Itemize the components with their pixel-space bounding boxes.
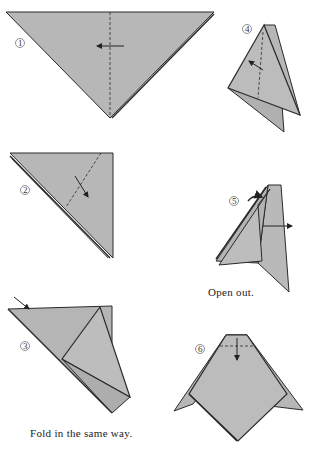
step-5-caption: Open out. bbox=[208, 286, 254, 298]
step-6: 6 bbox=[174, 335, 303, 441]
origami-diagram: 1 4 2 5 3 bbox=[0, 0, 312, 454]
step-3: 3 bbox=[8, 297, 130, 413]
step-3-caption: Fold in the same way. bbox=[30, 427, 132, 439]
step-number-1: 1 bbox=[18, 38, 23, 48]
step-number-6: 6 bbox=[198, 344, 203, 354]
step-number-5: 5 bbox=[232, 196, 237, 206]
step-2: 2 bbox=[10, 153, 113, 258]
step-4: 4 bbox=[228, 24, 300, 132]
step-1: 1 bbox=[6, 12, 214, 118]
step-5: 5 bbox=[216, 185, 292, 292]
step-number-2: 2 bbox=[23, 185, 28, 195]
step-number-3: 3 bbox=[23, 341, 28, 351]
step-number-4: 4 bbox=[245, 24, 250, 34]
